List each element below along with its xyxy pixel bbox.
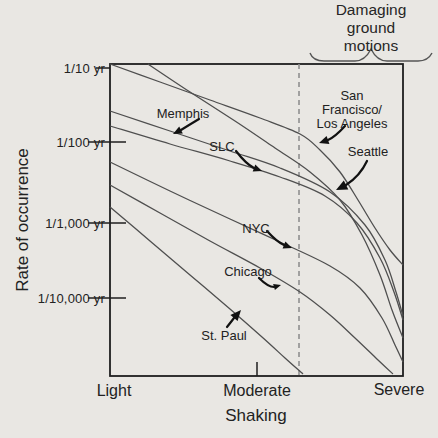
nyc-arrow-icon [267,231,292,249]
chicago-arrow-icon [259,278,281,290]
label-arrows-layer [173,119,367,327]
xtick-label-severe: Severe [374,381,425,399]
xtick-label-moderate: Moderate [223,382,291,400]
label-seattle: Seattle [348,145,388,159]
hazard-curves-figure: Damaging ground motions 1/10 yr 1/100 yr… [0,0,438,438]
label-slc: SLC [209,140,234,154]
xtick-label-light: Light [97,382,132,400]
memphis-arrow-icon [173,119,199,134]
annotation-line1: Damaging [336,1,407,19]
y-axis-ticks [88,68,126,298]
label-sf-line2: Los Angeles [309,117,395,131]
curve-st-paul [110,207,303,374]
label-sf-line1: San Francisco/ [309,89,395,117]
y-axis-title: Rate of occurrence [13,148,33,292]
ytick-label-1-10000: 1/10,000 yr [15,291,105,306]
annotation-line2: ground motions [336,19,407,55]
x-axis-title: Shaking [225,406,286,426]
label-st-paul: St. Paul [201,329,247,343]
damaging-ground-motions-annotation: Damaging ground motions [336,1,407,55]
label-memphis: Memphis [157,107,210,121]
label-san-francisco-los-angeles: San Francisco/ Los Angeles [309,89,395,131]
label-nyc: NYC [242,222,269,236]
seattle-arrow-icon [336,161,367,190]
label-chicago: Chicago [224,265,272,279]
ytick-label-1-10: 1/10 yr [15,61,105,76]
curve-memphis [110,111,403,316]
